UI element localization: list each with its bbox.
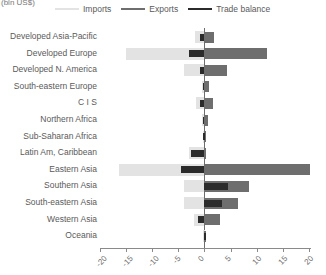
category-label: Oceania (65, 231, 97, 240)
x-axis-tick-label: -20 (94, 254, 109, 269)
plot-area (100, 28, 326, 248)
bar-exports (204, 48, 267, 59)
bar-exports (204, 65, 226, 76)
bar-exports (204, 32, 214, 43)
bar-imports (184, 180, 205, 192)
x-axis-line (100, 248, 311, 249)
x-axis-tick-label: -10 (147, 254, 162, 269)
category-label-column: Developed Asia-PacificDeveloped EuropeDe… (0, 28, 97, 248)
bar-exports (204, 98, 213, 109)
category-label: Developed Europe (27, 49, 97, 58)
category-label: Western Asia (47, 215, 97, 224)
legend-swatch-imports (55, 8, 79, 10)
x-axis-tick (257, 248, 258, 252)
bar-exports (204, 164, 309, 175)
bar-trade-balance (203, 83, 205, 90)
x-axis-tick-label: 10 (250, 254, 263, 267)
x-axis-tick (126, 248, 127, 252)
x-axis-tick (231, 248, 232, 252)
bar-trade-balance (203, 117, 205, 124)
category-label: South-eastern Europe (14, 82, 97, 91)
bar-trade-balance (204, 233, 205, 240)
bar-trade-balance (191, 150, 205, 157)
bar-trade-balance (204, 183, 228, 190)
x-axis-tick-label: 0 (197, 254, 207, 264)
bar-trade-balance (200, 100, 205, 107)
category-label: Sub-Saharan Africa (23, 132, 97, 141)
category-label: Northern Africa (40, 115, 97, 124)
category-label: Developed Asia-Pacific (10, 32, 97, 41)
x-axis-tick-label: 15 (276, 254, 289, 267)
x-axis-tick-label: 5 (223, 254, 233, 264)
bar-trade-balance (181, 166, 204, 173)
x-axis-tick (100, 248, 101, 252)
legend-item-trade-balance: Trade balance (188, 4, 270, 14)
category-label: Developed N. America (12, 65, 97, 74)
bar-exports (204, 148, 206, 159)
chart-legend: Imports Exports Trade balance (55, 4, 270, 14)
bar-imports (184, 197, 205, 209)
legend-label-exports: Exports (149, 4, 178, 14)
bar-trade-balance (200, 34, 205, 41)
bar-trade-balance (203, 133, 204, 140)
bar-exports (204, 214, 220, 225)
unit-label: (bln US$) (1, 0, 35, 7)
x-axis-tick (204, 248, 205, 252)
bar-trade-balance (198, 216, 205, 223)
bar-exports (204, 81, 208, 92)
legend-item-exports: Exports (121, 4, 178, 14)
category-label: Southern Asia (44, 181, 97, 190)
legend-label-imports: Imports (83, 4, 111, 14)
category-label: C I S (78, 98, 97, 107)
bar-exports (204, 115, 207, 126)
x-axis-tick (178, 248, 179, 252)
category-label: Latin Am, Caribbean (20, 148, 97, 157)
bar-trade-balance (189, 50, 205, 57)
trade-balance-bar-chart: (bln US$) Imports Exports Trade balance … (0, 0, 326, 275)
x-axis-tick (283, 248, 284, 252)
bar-trade-balance (200, 67, 204, 74)
legend-swatch-trade-balance (188, 8, 212, 10)
category-label: Eastern Asia (49, 165, 97, 174)
legend-swatch-exports (121, 8, 145, 10)
x-axis-tick (152, 248, 153, 252)
bar-trade-balance (204, 200, 221, 207)
x-axis-tick-label: -5 (171, 254, 182, 265)
category-label: South-eastern Asia (25, 198, 97, 207)
x-axis-tick (309, 248, 310, 252)
bar-exports (204, 131, 206, 142)
legend-item-imports: Imports (55, 4, 111, 14)
x-axis-tick-label: -15 (120, 254, 135, 269)
x-axis-tick-label: 20 (302, 254, 315, 267)
legend-label-trade-balance: Trade balance (216, 4, 270, 14)
